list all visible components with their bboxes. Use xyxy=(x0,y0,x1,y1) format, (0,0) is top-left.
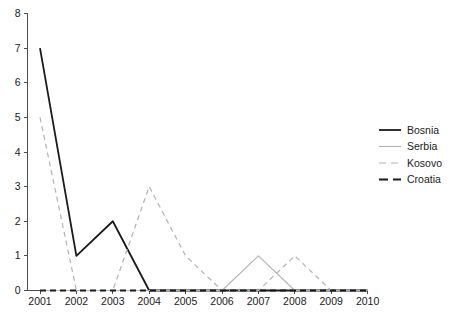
x-axis-tick-label: 2007 xyxy=(247,295,271,307)
x-axis: 2001200220032004200520062007200820092010 xyxy=(28,291,380,308)
data-series-group xyxy=(40,48,368,290)
y-axis-tick-label: 0 xyxy=(15,284,21,296)
y-axis: 012345678 xyxy=(15,7,28,296)
legend-label-serbia: Serbia xyxy=(407,140,438,152)
y-axis-tick-label: 4 xyxy=(15,146,21,158)
x-axis-tick-label: 2002 xyxy=(65,295,89,307)
y-axis-tick-label: 6 xyxy=(15,76,21,88)
legend-label-croatia: Croatia xyxy=(407,173,441,185)
x-axis-tick-label: 2001 xyxy=(28,295,52,307)
y-axis-tick-label: 7 xyxy=(15,42,21,54)
legend-label-kosovo: Kosovo xyxy=(407,157,442,169)
line-chart: 012345678 200120022003200420052006200720… xyxy=(0,0,451,313)
x-axis-tick-label: 2006 xyxy=(210,295,234,307)
y-axis-tick-label: 3 xyxy=(15,180,21,192)
series-line-kosovo xyxy=(40,117,368,290)
x-axis-tick-label: 2003 xyxy=(101,295,125,307)
y-axis-tick-label: 1 xyxy=(15,249,21,261)
x-axis-tick-label: 2005 xyxy=(174,295,198,307)
series-line-bosnia xyxy=(40,48,368,290)
x-axis-tick-label: 2004 xyxy=(138,295,162,307)
y-axis-tick-label: 8 xyxy=(15,7,21,19)
chart-legend: BosniaSerbiaKosovoCroatia xyxy=(379,124,442,186)
x-axis-tick-label: 2009 xyxy=(320,295,344,307)
x-axis-tick-label: 2008 xyxy=(283,295,307,307)
y-axis-tick-label: 2 xyxy=(15,215,21,227)
legend-label-bosnia: Bosnia xyxy=(407,124,439,136)
x-axis-tick-label: 2010 xyxy=(356,295,380,307)
y-axis-tick-label: 5 xyxy=(15,111,21,123)
chart-canvas: 012345678 200120022003200420052006200720… xyxy=(0,0,451,313)
